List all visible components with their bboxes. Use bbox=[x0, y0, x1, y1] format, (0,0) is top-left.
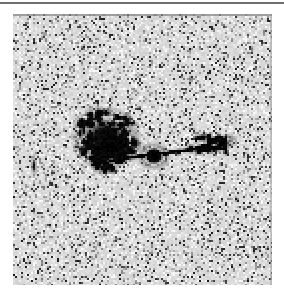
page-root: Grayscale astronomical image: a bright c… bbox=[0, 0, 284, 298]
astronomical-image-panel bbox=[13, 14, 272, 285]
top-horizontal-rule bbox=[0, 2, 284, 4]
sky-image-canvas bbox=[13, 14, 272, 285]
figure-alt-text: Grayscale astronomical image: a bright c… bbox=[0, 0, 1, 1]
